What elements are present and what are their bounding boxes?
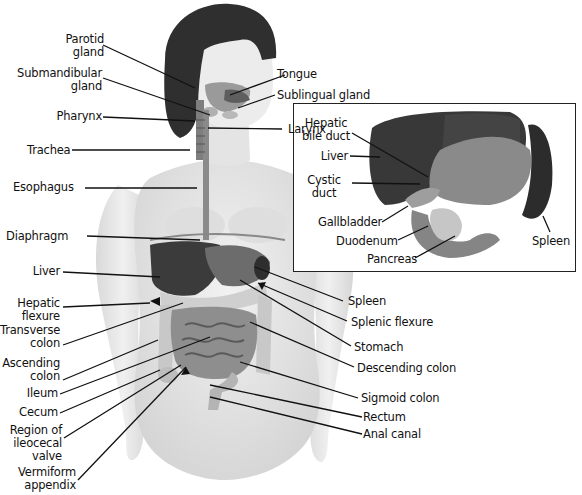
label-cecum: Cecum xyxy=(0,406,58,419)
label-rectum: Rectum xyxy=(363,411,406,424)
label-hepatic-flexure: Hepatic flexure xyxy=(0,297,60,323)
label-descending-colon: Descending colon xyxy=(357,362,456,375)
label-submandibular-gland: Submandibular gland xyxy=(14,67,102,93)
label-sublingual-gland: Sublingual gland xyxy=(277,89,370,102)
label-ileocecal-valve: Region of ileocecal valve xyxy=(0,424,62,463)
label-vermiform-appendix: Vermiform appendix xyxy=(0,466,76,492)
label-pancreas: Pancreas xyxy=(367,253,417,266)
label-diaphragm: Diaphragm xyxy=(6,230,68,243)
label-trachea: Trachea xyxy=(27,144,70,157)
label-inset-spleen: Spleen xyxy=(532,235,570,248)
label-stomach: Stomach xyxy=(354,341,403,354)
label-pharynx: Pharynx xyxy=(46,110,102,123)
label-inset-liver: Liver xyxy=(300,150,348,163)
label-gallbladder: Gallbladder xyxy=(318,216,382,229)
label-tongue: Tongue xyxy=(277,68,317,81)
label-cystic-duct: Cystic duct xyxy=(298,174,350,200)
label-parotid-gland: Parotid gland xyxy=(46,33,104,59)
label-anal-canal: Anal canal xyxy=(363,428,421,441)
label-spleen: Spleen xyxy=(348,295,386,308)
label-ascending-colon: Ascending colon xyxy=(0,357,60,383)
digestive-system-diagram: Parotid gland Submandibular gland Pharyn… xyxy=(0,0,582,495)
label-splenic-flexure: Splenic flexure xyxy=(351,316,433,329)
label-transverse-colon: Transverse colon xyxy=(0,324,60,350)
label-ileum: Ileum xyxy=(0,387,58,400)
label-duodenum: Duodenum xyxy=(336,235,398,248)
label-liver: Liver xyxy=(0,265,60,278)
label-hepatic-bile-duct: Hepatic bile duct xyxy=(298,117,354,143)
label-sigmoid-colon: Sigmoid colon xyxy=(361,392,439,405)
label-esophagus: Esophagus xyxy=(13,181,74,194)
